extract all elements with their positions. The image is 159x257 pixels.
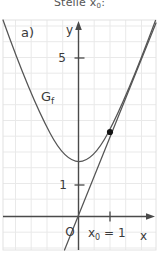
coordinate-plot: a) y x 5 1 O Gf x0 = 1 — [0, 0, 159, 257]
x-tick-annotation: x0 = 1 — [88, 226, 126, 242]
axis-lines — [3, 27, 150, 250]
x-axis-arrow — [146, 213, 155, 220]
panel-label: a) — [21, 25, 34, 40]
x-tick-annotation-equation: = 1 — [100, 226, 125, 240]
figure-panel: Stelle x0: — [0, 0, 159, 257]
curve-label-main: G — [41, 89, 51, 104]
x-tick-annotation-main: x — [88, 226, 95, 240]
y-tick-label-1: 1 — [59, 178, 67, 192]
x-axis-label: x — [140, 229, 147, 243]
grid-lines — [3, 20, 156, 250]
origin-label: O — [65, 225, 74, 239]
plot-frame — [3, 20, 156, 250]
y-tick-label-5: 5 — [58, 51, 66, 65]
curve-label: Gf — [41, 89, 55, 106]
tangency-point-marker — [107, 129, 113, 135]
y-axis-label: y — [66, 23, 73, 37]
